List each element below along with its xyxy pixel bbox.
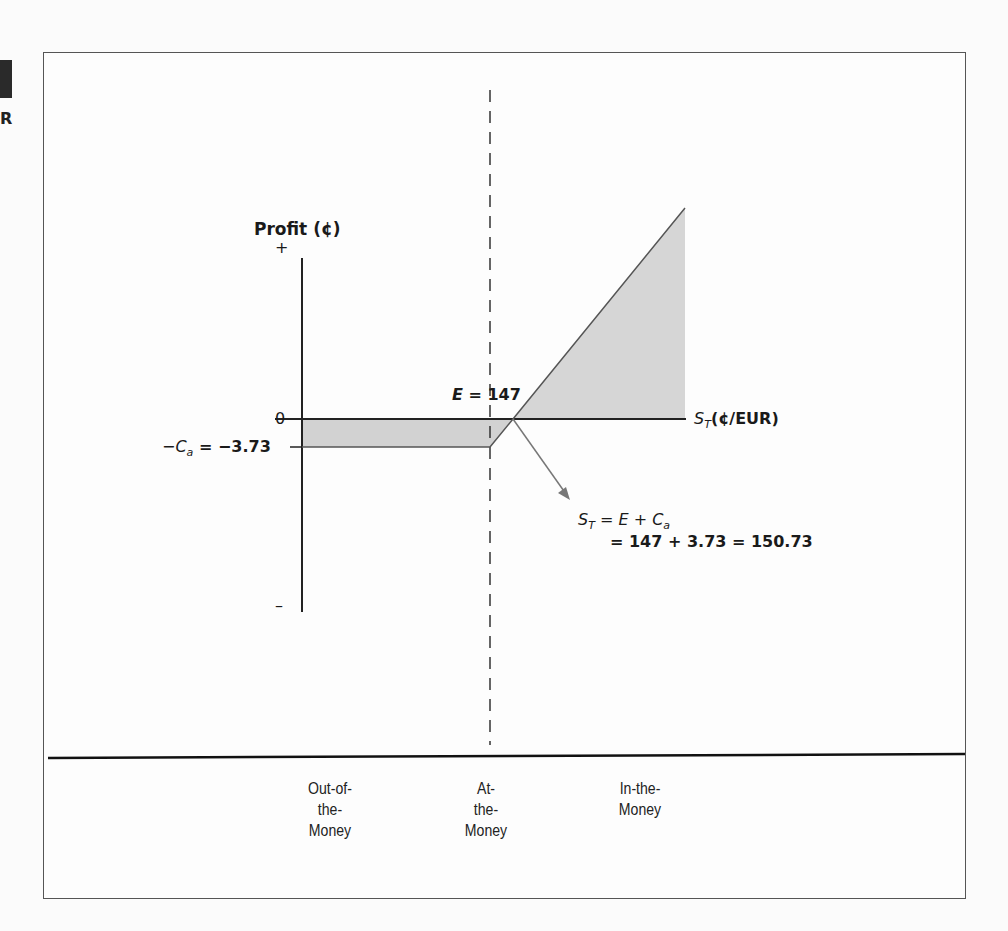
- strike-label-value: = 147: [463, 385, 521, 404]
- x-axis-title-var: S: [694, 409, 704, 428]
- loss-region-shade: [302, 419, 513, 447]
- x-axis-title-unit: (¢/EUR): [711, 409, 779, 428]
- region-out-line-3: Money: [295, 820, 365, 841]
- region-at-line-2: the-: [451, 799, 521, 820]
- region-out-line-2: the-: [295, 799, 365, 820]
- region-out-of-the-money: Out-of- the- Money: [295, 778, 365, 841]
- region-at-line-1: At-: [451, 778, 521, 799]
- strike-label: E = 147: [452, 387, 521, 403]
- premium-label: −Ca = −3.73: [162, 439, 271, 458]
- strike-label-var: E: [452, 385, 463, 404]
- premium-label-prefix: −C: [162, 437, 187, 456]
- x-axis-title: ST(¢/EUR): [694, 411, 779, 430]
- region-separator: [48, 754, 965, 758]
- breakeven-lhs-sub: T: [588, 519, 595, 532]
- y-zero-label: 0: [275, 411, 285, 427]
- arrowhead-icon: [558, 487, 570, 500]
- breakeven-line-1: ST = E + Ca: [578, 512, 670, 531]
- y-plus-label: +: [275, 240, 288, 256]
- breakeven-rhs: = E + C: [595, 510, 663, 529]
- region-in-line-1: In-the-: [605, 778, 675, 799]
- breakeven-lhs-var: S: [578, 510, 588, 529]
- region-out-line-1: Out-of-: [295, 778, 365, 799]
- breakeven-rhs-sub: a: [663, 519, 670, 532]
- x-axis-title-sub: T: [704, 418, 711, 431]
- y-minus-label: –: [275, 598, 283, 614]
- y-axis-title: Profit (¢): [254, 221, 341, 238]
- region-in-line-2: Money: [605, 799, 675, 820]
- premium-label-value: = −3.73: [193, 437, 270, 456]
- breakeven-line-2: = 147 + 3.73 = 150.73: [610, 534, 813, 550]
- breakeven-arrow: [513, 419, 566, 494]
- region-at-the-money: At- the- Money: [451, 778, 521, 841]
- region-in-the-money: In-the- Money: [605, 778, 675, 820]
- region-at-line-3: Money: [451, 820, 521, 841]
